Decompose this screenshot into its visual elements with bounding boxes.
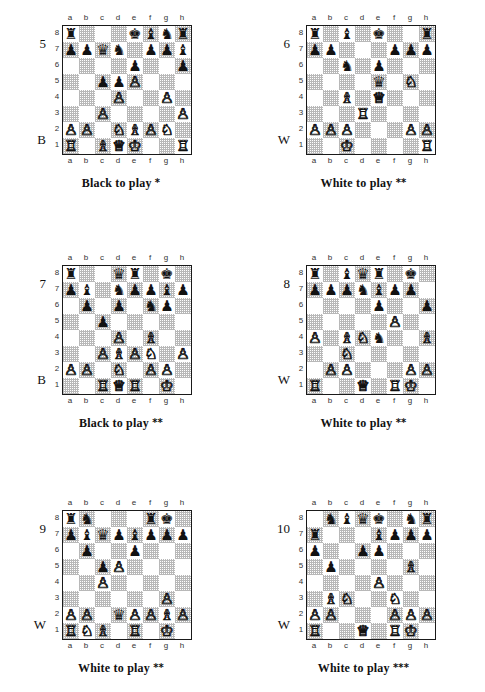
square-f8[interactable]: ♝	[143, 26, 159, 42]
square-c4[interactable]: ♙	[95, 575, 111, 591]
white-knight[interactable]: ♘	[339, 346, 355, 362]
square-a2[interactable]: ♙	[63, 122, 79, 138]
square-c6[interactable]	[339, 298, 355, 314]
square-d8[interactable]	[355, 26, 371, 42]
black-bishop[interactable]: ♝	[159, 282, 175, 298]
white-knight[interactable]: ♘	[79, 623, 95, 639]
square-a4[interactable]	[307, 575, 323, 591]
square-a2[interactable]: ♙	[63, 607, 79, 623]
square-c3[interactable]: ♙	[95, 106, 111, 122]
white-bishop[interactable]: ♗	[111, 346, 127, 362]
white-pawn[interactable]: ♙	[143, 362, 159, 378]
square-g7[interactable]: ♟	[403, 527, 419, 543]
black-king[interactable]: ♚	[371, 511, 387, 527]
square-g1[interactable]	[403, 138, 419, 154]
square-d7[interactable]: ♞	[111, 42, 127, 58]
black-pawn[interactable]: ♟	[63, 527, 79, 543]
square-h8[interactable]: ♜	[175, 26, 191, 42]
square-h6[interactable]	[419, 543, 435, 559]
square-f4[interactable]	[387, 330, 403, 346]
white-pawn[interactable]: ♙	[387, 314, 403, 330]
square-g4[interactable]	[159, 575, 175, 591]
white-rook[interactable]: ♖	[307, 623, 323, 639]
square-a4[interactable]: ♙	[307, 330, 323, 346]
square-e7[interactable]: ♝	[371, 282, 387, 298]
square-g4[interactable]: ♙	[159, 90, 175, 106]
square-f5[interactable]	[387, 74, 403, 90]
square-b2[interactable]: ♙	[323, 607, 339, 623]
square-a6[interactable]	[307, 298, 323, 314]
black-pawn[interactable]: ♟	[95, 314, 111, 330]
square-d8[interactable]: ♛	[111, 266, 127, 282]
square-c4[interactable]	[95, 90, 111, 106]
square-f6[interactable]: ♞	[143, 298, 159, 314]
square-f3[interactable]: ♘	[143, 346, 159, 362]
square-d2[interactable]: ♘	[111, 122, 127, 138]
square-f1[interactable]	[143, 138, 159, 154]
square-d6[interactable]: ♟	[111, 298, 127, 314]
black-king[interactable]: ♚	[159, 511, 175, 527]
square-e3[interactable]	[371, 591, 387, 607]
white-king[interactable]: ♔	[403, 378, 419, 394]
square-e4[interactable]	[127, 330, 143, 346]
square-d5[interactable]	[355, 314, 371, 330]
black-pawn[interactable]: ♟	[159, 298, 175, 314]
square-e8[interactable]: ♚	[371, 511, 387, 527]
square-g5[interactable]	[403, 314, 419, 330]
square-h1[interactable]: ♖	[175, 138, 191, 154]
white-pawn[interactable]: ♙	[95, 346, 111, 362]
black-bishop[interactable]: ♝	[339, 266, 355, 282]
white-pawn[interactable]: ♙	[159, 591, 175, 607]
black-pawn[interactable]: ♟	[387, 527, 403, 543]
black-rook[interactable]: ♜	[307, 26, 323, 42]
square-b4[interactable]	[323, 90, 339, 106]
black-bishop[interactable]: ♝	[127, 527, 143, 543]
square-e5[interactable]: ♙	[127, 74, 143, 90]
square-h2[interactable]	[175, 122, 191, 138]
square-a1[interactable]: ♖	[307, 378, 323, 394]
square-g2[interactable]: ♙	[403, 122, 419, 138]
square-g6[interactable]	[403, 543, 419, 559]
square-a7[interactable]: ♟	[63, 282, 79, 298]
square-a3[interactable]	[307, 591, 323, 607]
square-a1[interactable]: ♖	[63, 623, 79, 639]
square-e3[interactable]: ♙	[127, 346, 143, 362]
square-a3[interactable]	[63, 106, 79, 122]
square-f7[interactable]: ♟	[387, 42, 403, 58]
square-c2[interactable]: ♙	[339, 362, 355, 378]
square-h6[interactable]: ♟	[419, 298, 435, 314]
square-c3[interactable]: ♘	[339, 346, 355, 362]
black-bishop[interactable]: ♝	[79, 527, 95, 543]
square-d3[interactable]: ♖	[355, 106, 371, 122]
square-b2[interactable]: ♙	[79, 122, 95, 138]
white-pawn[interactable]: ♙	[63, 122, 79, 138]
white-bishop[interactable]: ♗	[95, 138, 111, 154]
square-g7[interactable]: ♟	[403, 42, 419, 58]
square-e1[interactable]	[371, 378, 387, 394]
square-c3[interactable]	[95, 591, 111, 607]
square-g3[interactable]	[403, 106, 419, 122]
black-pawn[interactable]: ♟	[79, 543, 95, 559]
square-c3[interactable]: ♘	[339, 591, 355, 607]
black-knight[interactable]: ♞	[143, 298, 159, 314]
square-c7[interactable]	[95, 282, 111, 298]
square-h2[interactable]: ♙	[175, 607, 191, 623]
square-d8[interactable]	[111, 511, 127, 527]
square-g1[interactable]	[159, 138, 175, 154]
square-g1[interactable]: ♔	[159, 378, 175, 394]
square-b1[interactable]: ♘	[79, 623, 95, 639]
square-b7[interactable]: ♟	[323, 282, 339, 298]
square-d8[interactable]	[111, 26, 127, 42]
square-e5[interactable]	[127, 314, 143, 330]
square-f8[interactable]	[387, 511, 403, 527]
black-knight[interactable]: ♞	[111, 42, 127, 58]
square-c2[interactable]: ♙	[339, 122, 355, 138]
square-f6[interactable]	[143, 543, 159, 559]
square-b7[interactable]: ♟	[323, 42, 339, 58]
square-h2[interactable]: ♙	[419, 362, 435, 378]
black-pawn[interactable]: ♟	[175, 527, 191, 543]
square-d2[interactable]	[355, 362, 371, 378]
square-d3[interactable]	[355, 346, 371, 362]
square-a8[interactable]: ♜	[307, 26, 323, 42]
square-f3[interactable]	[143, 591, 159, 607]
